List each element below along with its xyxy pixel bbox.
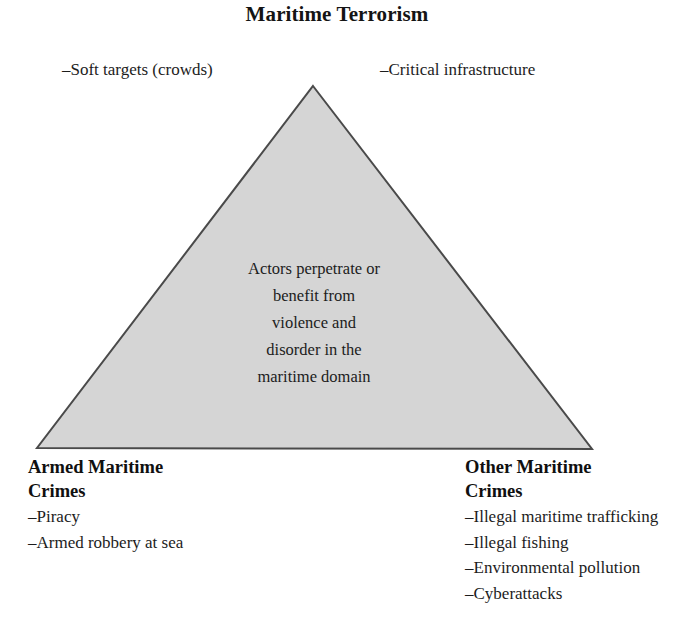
corner-heading-line: Crimes xyxy=(465,479,658,503)
corner-block-armed-maritime-crimes: Armed Maritime Crimes –Piracy –Armed rob… xyxy=(28,455,183,555)
list-item: –Illegal fishing xyxy=(465,530,658,556)
list-item: –Armed robbery at sea xyxy=(28,530,183,556)
maritime-terrorism-diagram: Maritime Terrorism –Soft targets (crowds… xyxy=(0,0,698,618)
corner-heading-armed-maritime-crimes: Armed Maritime Crimes xyxy=(28,455,183,503)
corner-block-other-maritime-crimes: Other Maritime Crimes –Illegal maritime … xyxy=(465,455,658,606)
corner-heading-line: Armed Maritime xyxy=(28,455,183,479)
list-item: –Environmental pollution xyxy=(465,555,658,581)
corner-list-other-maritime-crimes: –Illegal maritime trafficking –Illegal f… xyxy=(465,504,658,606)
core-statement-line: maritime domain xyxy=(214,363,414,390)
core-statement-line: benefit from xyxy=(214,282,414,309)
corner-heading-line: Other Maritime xyxy=(465,455,658,479)
list-item: –Illegal maritime trafficking xyxy=(465,504,658,530)
corner-list-armed-maritime-crimes: –Piracy –Armed robbery at sea xyxy=(28,504,183,555)
list-item: –Piracy xyxy=(28,504,183,530)
core-statement-line: Actors perpetrate or xyxy=(214,255,414,282)
core-statement-line: violence and xyxy=(214,309,414,336)
list-item: –Cyberattacks xyxy=(465,581,658,607)
core-statement-line: disorder in the xyxy=(214,336,414,363)
core-statement-text: Actors perpetrate or benefit from violen… xyxy=(214,255,414,390)
apex-label-soft-targets: –Soft targets (crowds) xyxy=(62,60,213,80)
apex-label-critical-infrastructure: –Critical infrastructure xyxy=(380,60,535,80)
corner-heading-line: Crimes xyxy=(28,479,183,503)
corner-heading-other-maritime-crimes: Other Maritime Crimes xyxy=(465,455,658,503)
